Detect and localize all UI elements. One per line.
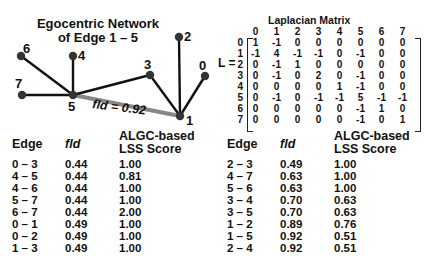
matrix-col-header: 7: [392, 26, 413, 37]
edge-cell: 3 – 4: [227, 194, 280, 206]
matrix-cell: 0: [371, 48, 392, 59]
score-table-left: EdgefldALGC-basedLSS Score0 – 30.441.004…: [12, 130, 229, 254]
fld-cell: 0.44: [65, 170, 119, 182]
matrix-row: 600000-110: [233, 103, 413, 114]
matrix-cell: -1: [266, 92, 287, 103]
matrix-cell: -1: [371, 92, 392, 103]
fld-cell: 0.70: [280, 194, 334, 206]
matrix-header-row: 01234567: [233, 26, 413, 37]
table-row: 0 – 10.491.00: [12, 218, 229, 230]
matrix-row: 50-10-1-15-1-1: [233, 92, 413, 103]
matrix-cell: 0: [329, 114, 350, 125]
score-cell: 0.63: [334, 194, 433, 206]
matrix-cell: 0: [266, 114, 287, 125]
fld-annotation: fld = 0.92: [92, 97, 147, 117]
graph-node: [175, 33, 183, 41]
edge-cell: 2 – 3: [227, 158, 280, 170]
edge-cell: 0 – 3: [12, 158, 65, 170]
matrix-col-header: 1: [266, 26, 287, 37]
matrix-col-header: 4: [329, 26, 350, 37]
node-label: 1: [186, 113, 193, 128]
matrix-cell: 0: [308, 114, 329, 125]
fld-cell: 0.92: [280, 230, 334, 242]
graph-edge: [21, 56, 73, 95]
graph-node: [176, 112, 184, 120]
matrix-cell: 0: [287, 92, 308, 103]
score-cell: 0.63: [334, 206, 433, 218]
table-row: 0 – 30.441.00: [12, 158, 229, 170]
matrix-cell: 0: [350, 37, 371, 48]
graph-edge: [73, 75, 150, 95]
score-cell: 0.51: [334, 230, 433, 242]
laplacian-matrix: 0123456701-10000001-14-1-10-10020-110000…: [233, 26, 413, 125]
matrix-cell: 0: [350, 59, 371, 70]
fld-cell: 0.49: [65, 230, 119, 242]
graph-node: [201, 72, 209, 80]
matrix-row-header: 3: [233, 70, 245, 81]
matrix-cell: 1: [287, 59, 308, 70]
matrix-row-header: 2: [233, 59, 245, 70]
matrix-cell: 0: [329, 37, 350, 48]
matrix-cell: 4: [266, 48, 287, 59]
table-row: 1 – 50.920.51: [227, 230, 433, 242]
fld-cell: 0.70: [280, 206, 334, 218]
table-row: 3 – 50.700.63: [227, 206, 433, 218]
matrix-right-bracket: [415, 38, 421, 132]
edge-cell: 2 – 4: [227, 242, 280, 254]
matrix-cell: -1: [287, 48, 308, 59]
matrix-row-header: 6: [233, 103, 245, 114]
score-header-line2: LSS Score: [119, 143, 229, 156]
matrix-cell: 5: [350, 92, 371, 103]
edge-cell: 4 – 6: [12, 182, 65, 194]
matrix-cell: 0: [266, 81, 287, 92]
matrix-row: 01-1000000: [233, 37, 413, 48]
matrix-cell: 0: [287, 114, 308, 125]
matrix-cell: 1: [245, 37, 266, 48]
matrix-cell: 0: [287, 70, 308, 81]
matrix-cell: 0: [287, 81, 308, 92]
matrix-cell: -1: [350, 114, 371, 125]
edge-cell: 0 – 1: [12, 218, 65, 230]
matrix-cell: 0: [245, 70, 266, 81]
score-header-line2: LSS Score: [334, 143, 433, 156]
col-fld-header: fld: [65, 130, 119, 158]
edge-cell: 5 – 7: [12, 194, 65, 206]
matrix-col-header: 3: [308, 26, 329, 37]
table-row: 4 – 50.440.81: [12, 170, 229, 182]
table-header: EdgefldALGC-basedLSS Score: [227, 130, 433, 158]
matrix-cell: -1: [266, 59, 287, 70]
title-line-2: of Edge 1 – 5: [28, 31, 168, 45]
col-edge-header: Edge: [227, 130, 280, 158]
matrix-cell: 0: [308, 37, 329, 48]
score-cell: 1.00: [119, 230, 229, 242]
table-row: 1 – 30.491.00: [12, 242, 229, 254]
matrix-cell: -1: [308, 92, 329, 103]
matrix-cell: -1: [350, 48, 371, 59]
score-cell: 1.00: [119, 194, 229, 206]
node-label: 7: [15, 76, 22, 91]
matrix-row: 30-1020-100: [233, 70, 413, 81]
matrix-col-header: 6: [371, 26, 392, 37]
matrix-cell: 0: [329, 48, 350, 59]
matrix-cell: -1: [350, 70, 371, 81]
fld-cell: 0.49: [65, 218, 119, 230]
matrix-cell: 0: [287, 37, 308, 48]
edge-cell: 6 – 7: [12, 206, 65, 218]
graph-node: [146, 71, 154, 79]
table-row: 4 – 60.441.00: [12, 182, 229, 194]
matrix-title: Laplacian Matrix: [268, 14, 350, 26]
matrix-cell: -1: [350, 103, 371, 114]
edge-cell: 4 – 7: [227, 170, 280, 182]
matrix-cell: -1: [308, 48, 329, 59]
edge-cell: 5 – 6: [227, 182, 280, 194]
matrix-cell: 0: [245, 92, 266, 103]
table-row: 6 – 70.442.00: [12, 206, 229, 218]
matrix-row: 400001-100: [233, 81, 413, 92]
col-edge-header: Edge: [12, 130, 65, 158]
matrix-row-header: 4: [233, 81, 245, 92]
matrix-row-header: 0: [233, 37, 245, 48]
matrix-cell: 0: [392, 48, 413, 59]
matrix-cell: 0: [371, 81, 392, 92]
score-cell: 2.00: [119, 206, 229, 218]
matrix-cell: 0: [371, 114, 392, 125]
